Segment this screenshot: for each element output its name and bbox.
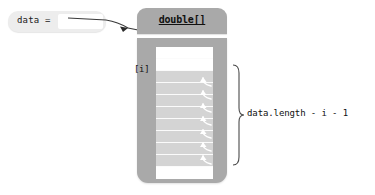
- range-annotation-label: data.length - i - 1: [247, 108, 348, 118]
- array-cell: [156, 143, 213, 155]
- array-cell: [156, 83, 213, 95]
- array-cell: [156, 167, 213, 179]
- diagram-canvas: data = double[]: [0, 0, 375, 195]
- array-cell: [156, 47, 213, 59]
- curly-brace-right-icon: [231, 64, 245, 166]
- array-cell: [156, 119, 213, 131]
- variable-name-label: data =: [17, 15, 51, 25]
- array-object: double[]: [137, 8, 227, 183]
- array-cell: [156, 71, 213, 83]
- index-label: [i]: [134, 64, 149, 74]
- array-cell: [156, 107, 213, 119]
- array-cell: [156, 155, 213, 167]
- array-cell: [156, 95, 213, 107]
- object-body: [137, 38, 227, 183]
- array-cell-list: [156, 47, 213, 179]
- object-type-label: double[]: [137, 14, 227, 25]
- array-cell: [156, 59, 213, 71]
- array-cell: [156, 131, 213, 143]
